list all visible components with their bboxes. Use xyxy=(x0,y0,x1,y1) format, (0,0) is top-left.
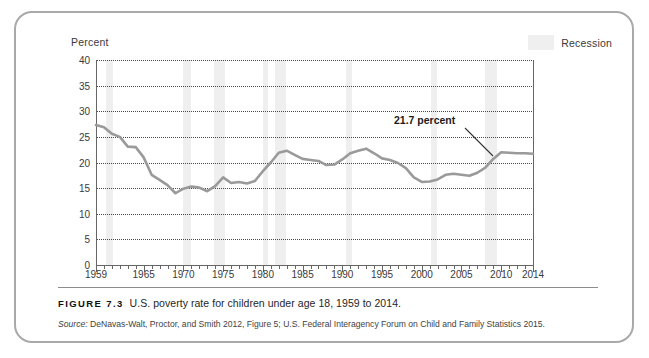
x-tick-label: 1975 xyxy=(212,269,234,280)
y-axis-tick-labels: 0510152025303540 xyxy=(66,60,90,266)
y-tick-label: 35 xyxy=(68,80,90,91)
y-tick-label: 10 xyxy=(68,208,90,219)
legend: Recession xyxy=(528,35,612,50)
x-tick-label: 1970 xyxy=(172,269,194,280)
y-tick-label: 20 xyxy=(68,157,90,168)
y-tick-label: 30 xyxy=(68,106,90,117)
x-axis-tick-labels: 1959196519701975198019851990199520002005… xyxy=(96,269,534,285)
legend-label-recession: Recession xyxy=(561,37,612,49)
annotation-final-value: 21.7 percent xyxy=(394,114,455,126)
x-tick-label: 1995 xyxy=(371,269,393,280)
y-tick-label: 25 xyxy=(68,131,90,142)
x-tick-label: 2000 xyxy=(411,269,433,280)
figure-caption-text: U.S. poverty rate for children under age… xyxy=(130,297,401,309)
figure-frame: Percent Recession 0510152025303540 19591… xyxy=(14,11,634,343)
caption-divider xyxy=(58,287,598,288)
x-tick-label: 1959 xyxy=(85,269,107,280)
y-axis-title: Percent xyxy=(71,36,109,48)
y-tick-label: 5 xyxy=(68,234,90,245)
chart-area: Percent Recession 0510152025303540 19591… xyxy=(16,13,636,288)
figure-caption: FIGURE 7.3 U.S. poverty rate for childre… xyxy=(58,297,401,309)
x-tick-label: 1990 xyxy=(331,269,353,280)
y-tick-label: 15 xyxy=(68,183,90,194)
legend-swatch-recession xyxy=(528,35,554,50)
figure-source-label: Source: xyxy=(58,319,88,329)
x-tick-label: 2014 xyxy=(522,269,544,280)
data-series-line xyxy=(96,60,534,266)
x-tick-label: 2010 xyxy=(490,269,512,280)
y-tick-label: 40 xyxy=(68,55,90,66)
x-tick-label: 1980 xyxy=(252,269,274,280)
x-tick-label: 1965 xyxy=(133,269,155,280)
x-tick-label: 1985 xyxy=(291,269,313,280)
plot-area xyxy=(96,60,534,266)
x-tick-label: 2005 xyxy=(450,269,472,280)
figure-caption-label: FIGURE 7.3 xyxy=(58,298,124,309)
figure-source-text: DeNavas-Walt, Proctor, and Smith 2012, F… xyxy=(90,319,545,329)
figure-source: Source: DeNavas-Walt, Proctor, and Smith… xyxy=(58,319,545,329)
